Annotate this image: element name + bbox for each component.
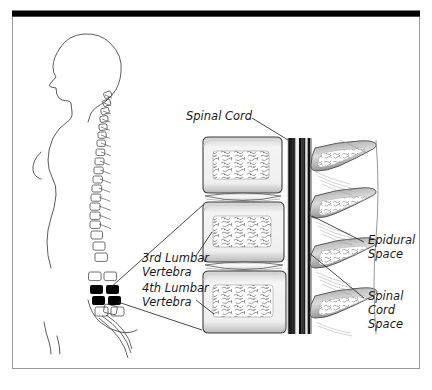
label-epidural-space-line2: Space [368, 247, 403, 261]
label-3rd-lumbar-line1: 3rd Lumbar [142, 251, 210, 265]
vertebral-body-2 [203, 202, 284, 262]
label-4th-lumbar-line2: Vertebra [142, 295, 192, 309]
label-epidural-space-line1: Epidural [368, 233, 416, 247]
spinal-anatomy-illustration: Spinal Cord 3rd Lumbar Vertebra 4th Lumb… [0, 0, 432, 390]
label-3rd-lumbar-line2: Vertebra [142, 265, 192, 279]
label-spinal-cord-space-line2: Cord [368, 303, 396, 317]
magnified-lumbar-section [203, 137, 286, 333]
highlighted-vertebra-l3-right [106, 285, 119, 294]
intervertebral-disc-1 [205, 193, 281, 202]
label-spinal-cord-space-line3: Space [368, 317, 403, 331]
frame-top-bar [12, 11, 420, 17]
label-4th-lumbar-line1: 4th Lumbar [142, 281, 210, 295]
vertebral-body-1 [203, 137, 282, 193]
vertebral-body-3 [203, 271, 286, 333]
highlighted-vertebra-l4-right [108, 296, 121, 305]
highlighted-vertebra-l3-left [90, 285, 103, 294]
label-spinal-cord-space-line1: Spinal [368, 289, 404, 303]
highlighted-vertebra-l4-left [92, 296, 105, 305]
label-spinal-cord: Spinal Cord [186, 109, 253, 123]
intervertebral-disc-2 [205, 262, 283, 271]
spinal-cord-canal [287, 138, 313, 334]
